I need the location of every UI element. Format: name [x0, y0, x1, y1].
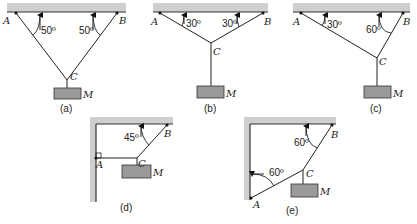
angle-arc-b	[379, 14, 391, 33]
caption-a: (a)	[60, 103, 72, 114]
point-c-label: C	[213, 46, 221, 57]
panel-b: A B C M 30º 30º (b)	[150, 3, 271, 114]
caption-c: (c)	[370, 103, 382, 114]
mass-label: M	[152, 167, 164, 178]
angle-arc-a	[33, 14, 40, 35]
mass-block	[197, 86, 224, 98]
point-a-label: A	[95, 159, 103, 170]
panel-e: A B C M 60º 60º (e)	[244, 117, 338, 216]
rope-ac	[16, 13, 67, 80]
angle-arc-b	[141, 125, 149, 145]
mass-block	[364, 86, 391, 98]
panel-d: A B C M 45º (d)	[90, 117, 173, 213]
point-c-label: C	[379, 56, 387, 67]
point-a-label: A	[252, 199, 260, 210]
angle-label-b: 30º	[222, 18, 237, 29]
mass-label: M	[319, 186, 331, 197]
panel-a: A B C M 50º 50º (a)	[2, 3, 126, 114]
point-b-label: B	[118, 15, 126, 26]
angle-label-a: 30º	[327, 19, 342, 30]
point-b-label: B	[402, 16, 410, 27]
point-c-label: C	[70, 71, 78, 82]
caption-b: (b)	[204, 103, 216, 114]
angle-arc-b	[93, 14, 100, 35]
statics-figure: A B C M 50º 50º (a) A B C M 30º 30º (b)	[0, 0, 417, 224]
rope-bc	[377, 13, 403, 58]
ceiling-support	[7, 3, 126, 12]
mass-block	[291, 184, 318, 197]
angle-label-b: 45º	[124, 132, 139, 143]
mass-label: M	[82, 89, 94, 100]
angle-label-b: 60º	[294, 137, 309, 148]
angle-label-b: 50º	[79, 25, 94, 36]
mass-label: M	[225, 88, 237, 99]
point-b-label: B	[330, 129, 338, 140]
rope-bc	[67, 13, 117, 80]
point-b-label: B	[163, 128, 171, 139]
ceiling-support	[153, 3, 268, 12]
mass-block	[54, 88, 81, 99]
point-a-label: A	[150, 16, 158, 27]
angle-label-b: 60º	[366, 24, 381, 35]
mass-block	[122, 165, 151, 178]
point-b-label: B	[263, 16, 271, 27]
point-a-label: A	[292, 16, 300, 27]
ceiling-support	[244, 117, 336, 124]
angle-label-a: 30º	[186, 18, 201, 29]
point-c-label: C	[306, 168, 314, 179]
caption-d: (d)	[120, 202, 132, 213]
caption-e: (e)	[286, 205, 298, 216]
ceiling-support	[90, 117, 173, 124]
point-a-label: A	[2, 15, 10, 26]
angle-label-a: 50º	[41, 25, 56, 36]
point-c-label: C	[138, 158, 146, 169]
panel-c: A B C M 30º 60º (c)	[292, 3, 410, 114]
ceiling-support	[293, 3, 410, 12]
mass-label: M	[392, 88, 404, 99]
angle-label-a: 60º	[269, 167, 284, 178]
wall-support	[244, 117, 250, 200]
